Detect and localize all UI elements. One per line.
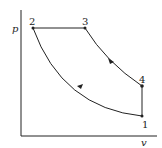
- x-axis-label: v: [141, 137, 147, 148]
- label-point-3: 3: [82, 16, 88, 27]
- process-1-2: [33, 28, 142, 116]
- process-3-4: [85, 28, 142, 86]
- arrow-1-2-icon: [77, 84, 83, 89]
- label-point-1: 1: [142, 119, 148, 130]
- pv-diagram: p v 2 3 4 1: [0, 0, 162, 148]
- y-axis-label: p: [12, 23, 19, 34]
- label-point-4: 4: [139, 74, 145, 85]
- point-1: [141, 115, 144, 118]
- label-point-2: 2: [29, 16, 35, 27]
